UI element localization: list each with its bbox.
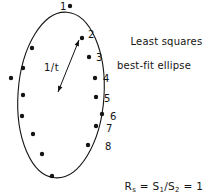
- data-point: [21, 93, 25, 97]
- data-point: [30, 46, 34, 50]
- point-label-1: 1: [60, 2, 66, 12]
- data-point: [31, 132, 35, 136]
- data-point: [100, 112, 104, 116]
- point-label-5: 5: [104, 94, 110, 104]
- data-point: [86, 143, 90, 147]
- arrow-shaft: [58, 40, 79, 92]
- data-point: [87, 55, 91, 59]
- data-point: [40, 152, 44, 156]
- formula-denominator-subscript: 2: [175, 186, 180, 193]
- caption-line-2: best-fit ellipse: [117, 60, 202, 72]
- ratio-formula: Rs = S1/S2 = 1.95: [110, 168, 204, 193]
- caption-line-1: Least squares: [131, 36, 203, 47]
- least-squares-ellipse-figure: Least squares best-fit ellipse 1/t Rs = …: [0, 0, 204, 193]
- point-label-3: 3: [96, 53, 102, 63]
- data-point: [93, 76, 97, 80]
- caption: Least squares best-fit ellipse: [117, 24, 202, 96]
- data-point: [80, 36, 84, 40]
- point-label-8: 8: [105, 142, 111, 152]
- data-point: [68, 4, 72, 8]
- formula-slash: /S: [164, 180, 175, 192]
- thickness-arrow: [58, 40, 79, 92]
- point-label-7: 7: [106, 124, 112, 134]
- data-point: [20, 114, 24, 118]
- data-point: [9, 76, 13, 80]
- data-point: [50, 174, 54, 178]
- data-point: [94, 95, 98, 99]
- arrow-head-upper: [75, 40, 79, 46]
- data-point: [21, 66, 25, 70]
- arrow-head-lower: [58, 86, 62, 92]
- formula-equals-2: = 1.95: [180, 180, 204, 192]
- point-label-6: 6: [110, 112, 116, 122]
- data-point: [94, 124, 98, 128]
- best-fit-ellipse: [12, 9, 109, 181]
- formula-equals-1: = S: [136, 180, 159, 192]
- formula-lhs-subscript: s: [132, 186, 136, 193]
- formula-numerator-subscript: 1: [159, 186, 164, 193]
- thickness-ratio-label: 1/t: [44, 62, 59, 74]
- point-label-2: 2: [88, 30, 94, 40]
- point-label-4: 4: [103, 74, 109, 84]
- ellipse-outline: [12, 9, 109, 181]
